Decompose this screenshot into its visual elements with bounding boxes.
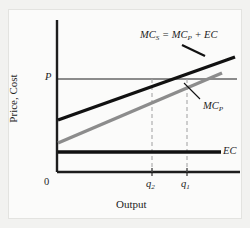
label-tick-q2: q2 — [146, 179, 155, 191]
label-private-mc-sub: P — [219, 105, 223, 113]
label-social-mc-base: MC — [140, 29, 156, 40]
x-axis-title: Output — [116, 199, 147, 210]
label-social-marginal-cost: MCS = MCP + EC — [140, 30, 218, 42]
label-q2-sub: 2 — [151, 183, 155, 191]
label-q1-sub: 1 — [186, 183, 190, 191]
label-tick-q1: q1 — [181, 179, 190, 191]
y-axis-title: Price, Cost — [8, 74, 19, 122]
leader-line-social — [182, 45, 205, 56]
label-social-mc-eq: = MC — [159, 29, 187, 40]
curve-private-marginal-cost — [58, 73, 222, 143]
label-origin: 0 — [44, 177, 49, 188]
label-social-mc-tail: + EC — [192, 29, 218, 40]
label-external-cost: EC — [223, 146, 236, 157]
label-private-mc-base: MC — [203, 100, 219, 111]
figure-root: MCS = MCP + EC MCP EC P 0 q2 q1 Output P… — [0, 0, 250, 228]
label-private-marginal-cost: MCP — [203, 101, 223, 113]
label-price-level: P — [45, 72, 51, 83]
